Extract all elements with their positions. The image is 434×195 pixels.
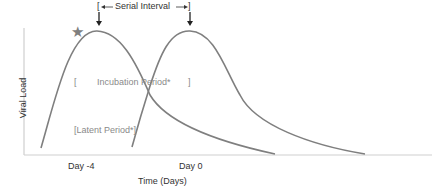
infector-viral-load-curve bbox=[41, 31, 275, 154]
x-tick-day-minus-4: Day -4 bbox=[68, 161, 95, 171]
arrowhead-icon bbox=[101, 5, 105, 9]
latent-period-label: [Latent Period*] bbox=[74, 125, 136, 135]
incubation-period-label: Incubation Period* bbox=[97, 77, 171, 87]
infectee-viral-load-curve bbox=[132, 31, 365, 154]
x-tick-day-0: Day 0 bbox=[179, 161, 203, 171]
arrowhead-icon bbox=[96, 21, 102, 26]
serial-interval-close-bracket: ] bbox=[188, 1, 191, 11]
serial-interval-label: Serial Interval bbox=[115, 1, 170, 11]
star-icon: ★ bbox=[71, 23, 84, 41]
incubation-bracket-close: ] bbox=[188, 77, 191, 87]
diagram-canvas bbox=[0, 0, 434, 195]
y-axis-label: Viral Load bbox=[18, 73, 28, 123]
arrowhead-icon bbox=[187, 21, 193, 26]
incubation-bracket-open: [ bbox=[74, 77, 77, 87]
serial-interval-open-bracket: [ bbox=[97, 1, 100, 11]
x-axis-label: Time (Days) bbox=[138, 176, 187, 186]
